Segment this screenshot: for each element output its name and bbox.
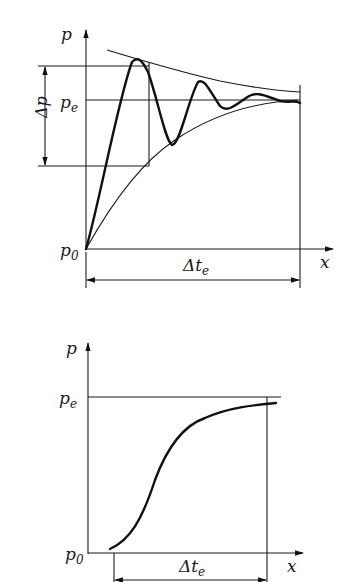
bottom-pe-label: pe: [59, 388, 77, 411]
top-oscillation-curve: [86, 59, 300, 249]
top-dp-label: Δp: [32, 96, 51, 119]
top-diagram: p pe p0 Δp Δte x: [32, 24, 333, 288]
bottom-y-label: p: [66, 338, 77, 358]
top-x-label: x: [320, 252, 330, 272]
top-lower-envelope: [86, 100, 300, 249]
top-y-label: p: [61, 24, 72, 44]
bottom-x-label: x: [287, 556, 297, 576]
top-pe-label: pe: [60, 92, 78, 115]
bottom-p0-label: p0: [65, 544, 84, 567]
bottom-diagram: p pe p0 Δte x: [59, 338, 303, 582]
diagram-canvas: p pe p0 Δp Δte x p pe p0 Δte x: [0, 0, 351, 582]
bottom-dt-label: Δte: [178, 556, 205, 579]
top-p0-label: p0: [60, 240, 79, 263]
top-upper-envelope: [107, 50, 300, 92]
top-dt-label: Δte: [182, 255, 209, 278]
bottom-s-curve: [110, 403, 276, 549]
